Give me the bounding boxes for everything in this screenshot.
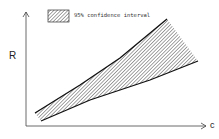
y-axis-label: R [9,50,16,61]
confidence-band-chart [0,0,219,139]
x-axis-label: c [210,120,215,130]
legend-swatch [48,10,69,22]
legend-label: 95% confidence interval [74,12,150,18]
